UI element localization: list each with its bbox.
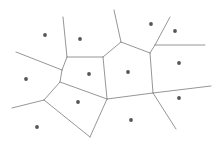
voronoi-edge [44, 100, 90, 137]
voronoi-site-point [87, 72, 91, 76]
voronoi-edge [121, 42, 150, 53]
voronoi-edge [90, 99, 107, 137]
voronoi-edge [155, 17, 170, 45]
voronoi-edge [60, 82, 107, 99]
voronoi-edge [150, 45, 155, 53]
voronoi-edge [153, 93, 176, 129]
voronoi-site-point [76, 100, 80, 104]
voronoi-edge [114, 10, 121, 42]
voronoi-edge [103, 42, 121, 57]
voronoi-site-point [177, 96, 181, 100]
voronoi-edge [16, 52, 62, 70]
voronoi-site-point [43, 33, 47, 37]
voronoi-edge [150, 53, 153, 93]
voronoi-edge [60, 70, 62, 82]
voronoi-canvas [0, 0, 223, 143]
voronoi-edge [153, 86, 211, 93]
voronoi-diagram [0, 0, 223, 143]
voronoi-site-point [78, 37, 82, 41]
voronoi-edge [44, 82, 60, 100]
voronoi-edge [62, 57, 67, 70]
voronoi-site-point [173, 29, 177, 33]
voronoi-site-point [24, 77, 28, 81]
voronoi-site-point [126, 70, 130, 74]
voronoi-edge [63, 17, 67, 57]
voronoi-edge [103, 57, 107, 99]
voronoi-sites [24, 22, 181, 129]
voronoi-site-point [35, 125, 39, 129]
voronoi-site-point [177, 61, 181, 65]
voronoi-site-point [129, 118, 133, 122]
voronoi-edge [107, 93, 153, 99]
voronoi-site-point [149, 22, 153, 26]
voronoi-edges [12, 10, 211, 137]
voronoi-edge [12, 100, 44, 108]
